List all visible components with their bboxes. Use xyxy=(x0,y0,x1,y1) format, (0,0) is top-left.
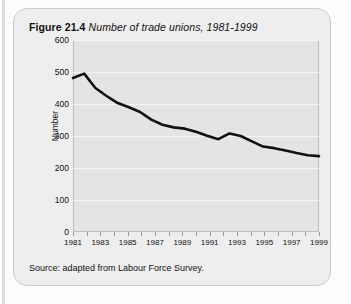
x-axis-tick xyxy=(237,232,238,236)
page-background: Figure 21.4 Number of trade unions, 1981… xyxy=(0,0,351,304)
x-axis-tick xyxy=(264,232,265,236)
y-axis-tick-label: 200 xyxy=(23,163,69,173)
x-axis-tick xyxy=(155,232,156,236)
x-axis-tick xyxy=(305,232,306,236)
page-edge-rule xyxy=(2,0,5,304)
source-note: Source: adapted from Labour Force Survey… xyxy=(29,263,204,273)
y-axis-tick-label: 600 xyxy=(23,35,69,45)
x-axis-tick xyxy=(182,232,183,236)
x-axis-tick xyxy=(100,232,101,236)
x-axis-tick xyxy=(278,232,279,236)
figure-caption: Number of trade unions, 1981-1999 xyxy=(89,21,258,33)
x-axis-tick xyxy=(223,232,224,236)
figure-title: Figure 21.4 Number of trade unions, 1981… xyxy=(29,21,258,33)
figure-card: Figure 21.4 Number of trade unions, 1981… xyxy=(13,8,331,286)
x-axis-tick xyxy=(196,232,197,236)
x-axis-tick xyxy=(319,232,320,236)
x-axis-tick xyxy=(292,232,293,236)
y-axis-tick-label: 0 xyxy=(23,227,69,237)
x-axis-tick xyxy=(141,232,142,236)
y-axis-tick-label: 400 xyxy=(23,99,69,109)
x-axis-tick xyxy=(87,232,88,236)
series-polyline xyxy=(73,74,319,157)
x-axis-tick xyxy=(251,232,252,236)
x-axis-tick xyxy=(169,232,170,236)
y-axis-tick-label: 500 xyxy=(23,67,69,77)
x-axis-tick xyxy=(73,232,74,236)
plot-area: 0100200300400500600 19811983198519871989… xyxy=(73,40,319,232)
chart-area: Number 0100200300400500600 1981198319851… xyxy=(29,35,319,250)
y-axis-tick-label: 300 xyxy=(23,131,69,141)
line-series-trade-unions xyxy=(73,40,319,232)
figure-number: Figure 21.4 xyxy=(29,21,86,33)
y-axis-tick-label: 100 xyxy=(23,195,69,205)
x-axis-tick xyxy=(114,232,115,236)
x-axis-tick xyxy=(210,232,211,236)
x-axis-tick-label: 1999 xyxy=(299,238,339,247)
x-axis-tick xyxy=(128,232,129,236)
